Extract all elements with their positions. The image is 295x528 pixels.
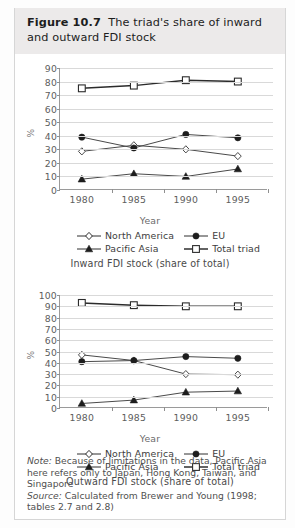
y-tick-label: 60 — [45, 335, 57, 346]
y-tick-mark — [57, 95, 60, 96]
data-point-marker — [130, 302, 137, 309]
y-tick-mark — [57, 295, 60, 296]
data-point-marker — [234, 165, 241, 172]
y-tick-label: 70 — [45, 90, 57, 101]
gridline — [60, 329, 273, 330]
data-point-marker — [78, 300, 85, 307]
gridline — [60, 352, 273, 353]
y-tick-label: 90 — [45, 63, 57, 74]
x-tick-label: 1990 — [174, 412, 198, 423]
gridline — [60, 385, 273, 386]
plot-area-chart-1: 01020304050607080901001980198519901995 — [59, 295, 267, 408]
y-tick-mark — [57, 306, 60, 307]
x-tick-mark — [164, 189, 165, 193]
gridline — [60, 136, 273, 137]
data-point-marker — [234, 387, 241, 394]
x-axis-title-chart-0: Year — [15, 215, 285, 226]
series-layer-chart-0 — [60, 68, 268, 190]
series-line — [82, 145, 238, 156]
y-tick-mark — [57, 318, 60, 319]
gridline — [60, 163, 273, 164]
y-tick-mark — [57, 374, 60, 375]
y-tick-mark — [57, 385, 60, 386]
data-point-marker — [183, 353, 189, 359]
figure-page: Figure 10.7 The triad's share of inward … — [0, 0, 295, 528]
x-axis-title-chart-1: Year — [15, 433, 285, 444]
x-tick-mark — [268, 189, 269, 193]
footer-source: Source: Calculated from Brewer and Young… — [27, 490, 275, 513]
figure-footer: Note: Because of limitations in the data… — [27, 455, 275, 513]
y-tick-label: 20 — [45, 380, 57, 391]
data-point-marker — [86, 232, 93, 239]
x-tick-mark — [164, 407, 165, 411]
y-tick-label: 40 — [45, 357, 57, 368]
plot-area-chart-0: 01020304050607080901980198519901995 — [59, 68, 267, 190]
y-tick-mark — [57, 82, 60, 83]
gridline — [60, 340, 273, 341]
y-tick-label: 30 — [45, 144, 57, 155]
gridline — [60, 363, 273, 364]
y-tick-label: 90 — [45, 301, 57, 312]
data-point-marker — [79, 359, 85, 365]
y-tick-label: 30 — [45, 369, 57, 380]
gridline — [60, 318, 273, 319]
y-tick-mark — [57, 397, 60, 398]
data-point-marker — [234, 153, 241, 160]
legend-marker-filled-triangle — [77, 244, 101, 254]
x-tick-mark — [216, 407, 217, 411]
y-tick-mark — [57, 363, 60, 364]
data-point-marker — [130, 82, 137, 89]
sub-caption-chart-0: Inward FDI stock (share of total) — [15, 258, 285, 269]
x-tick-mark — [268, 407, 269, 411]
gridline — [60, 68, 273, 69]
y-tick-mark — [57, 136, 60, 137]
y-axis-label-chart-1: % — [26, 347, 36, 363]
legend-label: Pacific Asia — [105, 243, 159, 254]
y-tick-label: 100 — [39, 290, 57, 301]
y-tick-mark — [57, 190, 60, 191]
gridline — [60, 397, 273, 398]
x-tick-label: 1995 — [226, 412, 250, 423]
figure-caption-band: Figure 10.7 The triad's share of inward … — [15, 8, 285, 54]
y-tick-label: 80 — [45, 312, 57, 323]
legend-marker-open-square — [184, 244, 208, 254]
legend-item-pacific-asia[interactable]: Pacific Asia — [77, 243, 174, 254]
x-tick-label: 1990 — [174, 194, 198, 205]
data-point-marker — [78, 85, 85, 92]
y-tick-mark — [57, 163, 60, 164]
gridline — [60, 176, 273, 177]
y-tick-mark — [57, 176, 60, 177]
note-text: Because of limitations in the data, Paci… — [27, 455, 267, 489]
figure-number: Figure 10.7 — [27, 16, 101, 29]
gridline — [60, 122, 273, 123]
legend-item-north-america[interactable]: North America — [77, 230, 174, 241]
legend-item-total-triad[interactable]: Total triad — [184, 243, 260, 254]
y-tick-label: 0 — [51, 403, 57, 414]
y-tick-label: 60 — [45, 103, 57, 114]
x-tick-label: 1980 — [70, 194, 94, 205]
y-tick-label: 10 — [45, 171, 57, 182]
y-tick-mark — [57, 408, 60, 409]
x-tick-label: 1995 — [226, 194, 250, 205]
legend-item-eu[interactable]: EU — [184, 230, 260, 241]
y-tick-mark — [57, 109, 60, 110]
north-america-marker-icon — [77, 231, 101, 241]
x-tick-label: 1980 — [70, 412, 94, 423]
y-tick-label: 40 — [45, 130, 57, 141]
y-axis-label-chart-0: % — [26, 125, 36, 141]
gridline — [60, 374, 273, 375]
y-tick-label: 0 — [51, 185, 57, 196]
x-tick-mark — [112, 189, 113, 193]
y-tick-mark — [57, 340, 60, 341]
gridline — [60, 149, 273, 150]
legend-chart-0: North AmericaEUPacific AsiaTotal triad — [77, 230, 260, 254]
gridline — [60, 95, 273, 96]
gridline — [60, 306, 273, 307]
legend-label: EU — [212, 230, 225, 241]
y-tick-mark — [57, 68, 60, 69]
figure-box: Figure 10.7 The triad's share of inward … — [14, 8, 286, 520]
series-line — [82, 169, 238, 179]
y-tick-mark — [57, 122, 60, 123]
footer-note: Note: Because of limitations in the data… — [27, 455, 275, 490]
chart-inward-fdi: % 01020304050607080901980198519901995 Ye… — [15, 60, 285, 260]
